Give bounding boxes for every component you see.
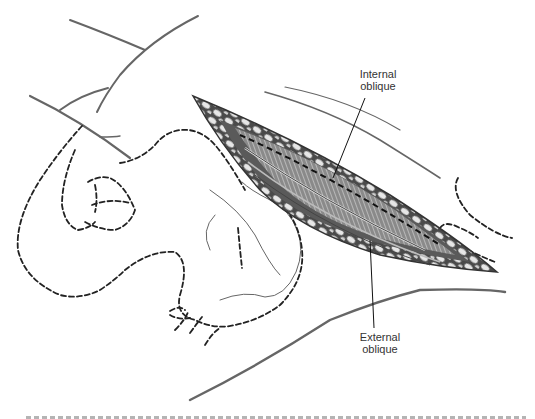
incision-wound xyxy=(193,96,497,272)
label-internal-oblique-line2: oblique xyxy=(343,80,413,92)
label-internal-oblique: Internal oblique xyxy=(343,68,413,92)
label-external-oblique: External oblique xyxy=(340,331,420,355)
label-external-oblique-line1: External xyxy=(340,331,420,343)
label-external-oblique-line2: oblique xyxy=(340,343,420,355)
body-contour-lines xyxy=(30,16,505,400)
figure-caption-clipped xyxy=(26,412,526,419)
label-internal-oblique-line1: Internal xyxy=(343,68,413,80)
internal-oblique-leader xyxy=(333,98,365,178)
surgical-illustration xyxy=(0,0,535,419)
